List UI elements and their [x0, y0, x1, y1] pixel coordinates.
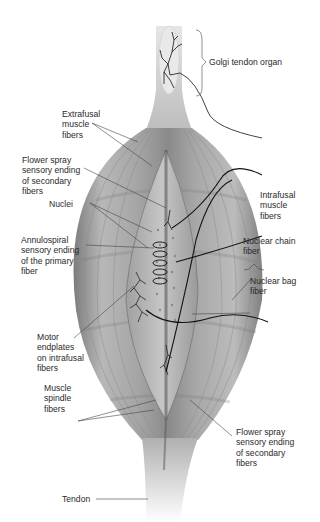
- label-motor-endplates: Motor endplates on intrafusal fibers: [37, 332, 84, 374]
- label-nuclear-chain-fiber: Nuclear chain fiber: [243, 236, 296, 257]
- label-golgi-tendon-organ: Golgi tendon organ: [209, 57, 282, 67]
- label-extrafusal-muscle-fibers: Extrafusal muscle fibers: [62, 109, 100, 140]
- bottom-tendon: [142, 438, 198, 522]
- label-intrafusal-muscle-fibers: Intrafusal muscle fibers: [260, 190, 295, 221]
- label-tendon: Tendon: [62, 494, 90, 504]
- label-nuclei: Nuclei: [49, 199, 73, 209]
- label-nuclear-bag-fiber: Nuclear bag fiber: [250, 276, 296, 297]
- label-muscle-spindle-fibers: Muscle spindle fibers: [44, 383, 71, 414]
- label-flower-spray-top: Flower spray sensory ending of secondary…: [22, 155, 80, 197]
- label-flower-spray-bottom: Flower spray sensory ending of secondary…: [236, 427, 294, 469]
- label-annulospiral: Annulospiral sensory ending of the prima…: [21, 235, 79, 277]
